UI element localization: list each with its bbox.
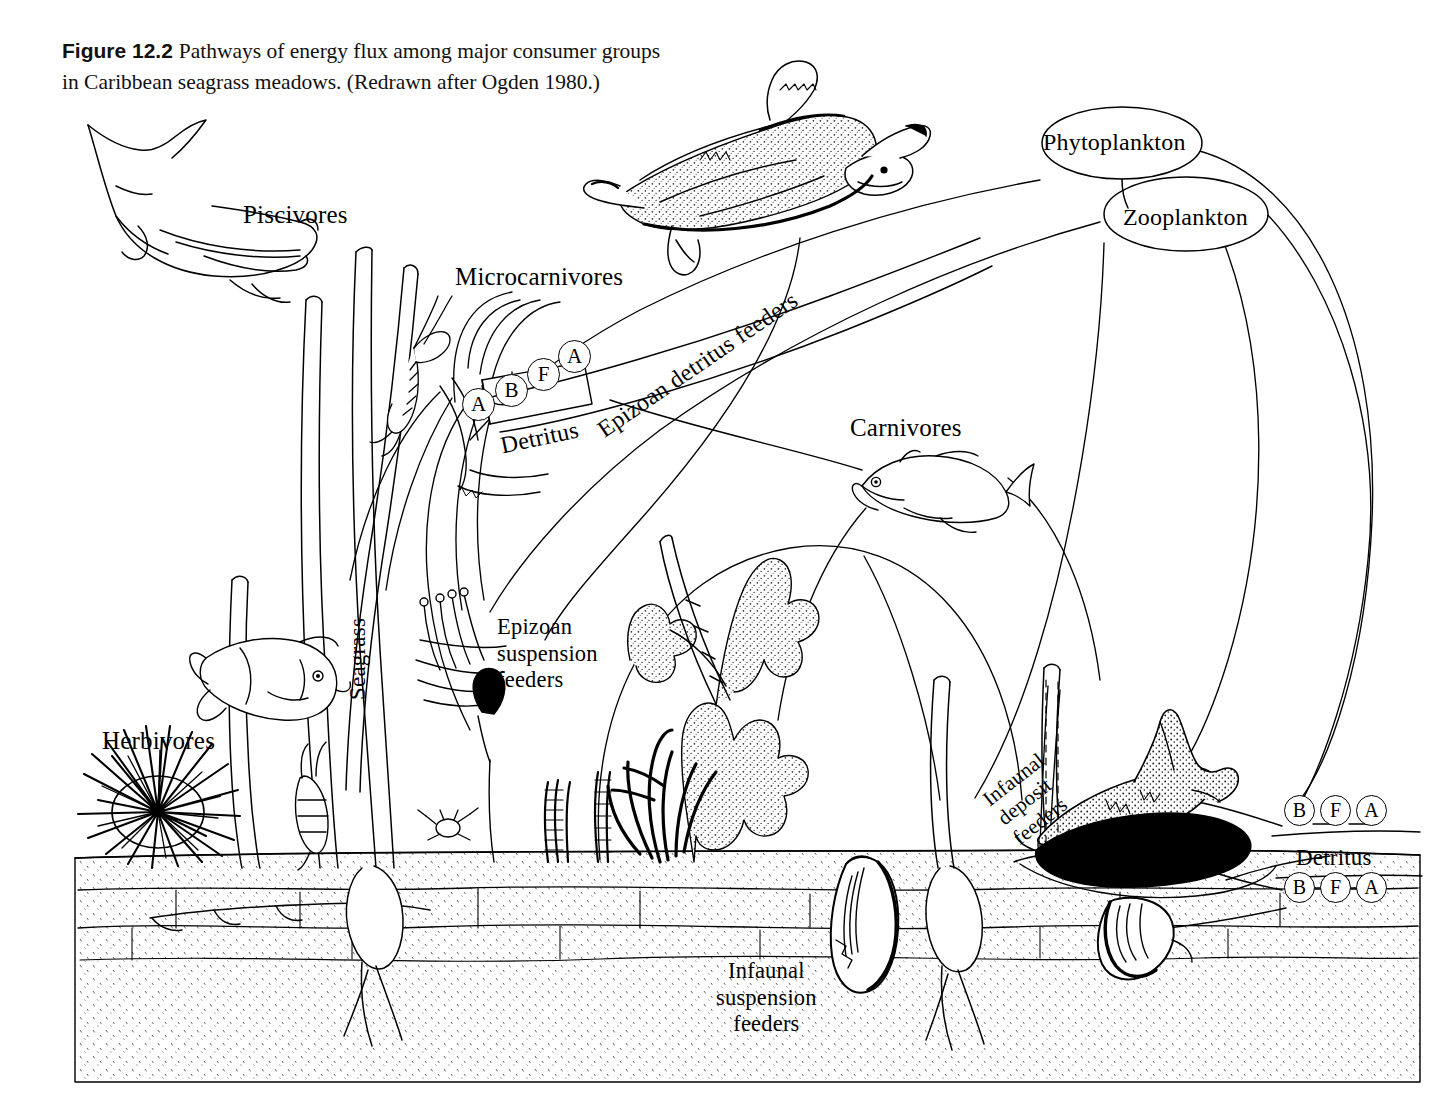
- figure-caption: Figure 12.2 Pathways of energy flux amon…: [62, 36, 762, 97]
- algae-tufts: [545, 772, 611, 862]
- figure-page: Figure 12.2 Pathways of energy flux amon…: [0, 0, 1456, 1119]
- sponge-illustration: [628, 535, 819, 862]
- label-zooplankton: Zooplankton: [1123, 203, 1248, 231]
- detritus-node-upper-1[interactable]: A: [462, 388, 495, 421]
- crab-illustration: [418, 808, 478, 840]
- label-piscivores: Piscivores: [243, 200, 348, 230]
- figure-caption-line1: Pathways of energy flux among major cons…: [179, 39, 660, 63]
- detritus-node-lower-top-1[interactable]: B: [1284, 795, 1315, 826]
- label-herbivores: Herbivores: [102, 726, 215, 756]
- parrotfish-illustration: [190, 637, 351, 720]
- detritus-node-upper-4[interactable]: A: [558, 340, 591, 373]
- label-epizoan-suspension-feeders: Epizoan suspension feeders: [497, 614, 598, 694]
- detritus-node-lower-bottom-1[interactable]: B: [1284, 872, 1315, 903]
- jack-fish-illustration: [852, 450, 1034, 532]
- label-infaunal-suspension-feeders: Infaunal suspension feeders: [716, 958, 817, 1038]
- label-seagrass: Seagrass: [344, 618, 371, 700]
- detritus-node-upper-2[interactable]: B: [495, 374, 528, 407]
- detritus-node-lower-top-3[interactable]: A: [1356, 795, 1387, 826]
- label-microcarnivores: Microcarnivores: [455, 262, 623, 292]
- epifauna-small: [296, 588, 507, 870]
- label-carnivores: Carnivores: [850, 413, 962, 443]
- shrimp-illustration: [370, 296, 452, 456]
- label-detritus-lower: Detritus: [1296, 844, 1372, 871]
- detritus-node-lower-bottom-3[interactable]: A: [1356, 872, 1387, 903]
- figure-number: Figure 12.2: [62, 39, 173, 62]
- clam-illustration: [831, 856, 899, 993]
- figure-caption-line2: in Caribbean seagrass meadows. (Redrawn …: [62, 70, 600, 94]
- label-phytoplankton: Phytoplankton: [1043, 128, 1186, 156]
- detritus-node-upper-3[interactable]: F: [527, 358, 560, 391]
- detritus-node-lower-bottom-2[interactable]: F: [1320, 872, 1351, 903]
- seagrass-foodweb-illustration: [0, 0, 1456, 1119]
- detritus-node-lower-top-2[interactable]: F: [1320, 795, 1351, 826]
